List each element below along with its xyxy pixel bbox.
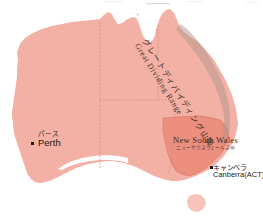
australia-map-svg	[0, 0, 263, 217]
map-container: グレートディバイディング山脈 Great Dividing Range New …	[0, 0, 263, 217]
coast-detail-southeast	[160, 182, 184, 188]
city-marker-perth	[31, 142, 34, 145]
city-marker-canberra	[210, 166, 213, 169]
coast-detail-west	[8, 116, 13, 132]
tasmania	[187, 194, 206, 212]
scan-artifacts	[104, 1, 258, 4]
